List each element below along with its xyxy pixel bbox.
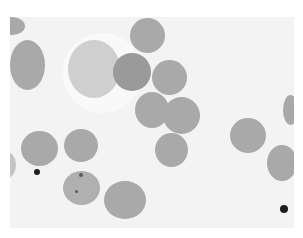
inclusion [75, 190, 78, 193]
blood-cell [155, 133, 188, 167]
blood-cell [230, 118, 266, 153]
blood-cell [104, 181, 146, 219]
blood-cell [267, 145, 294, 181]
blood-cell [64, 129, 98, 162]
micrograph [0, 0, 303, 238]
blood-cell [10, 17, 25, 35]
slide-field [10, 17, 294, 228]
blood-cell [21, 131, 58, 166]
blood-cell [163, 97, 200, 134]
debris [34, 169, 40, 175]
inclusion [79, 173, 83, 177]
blood-cell [130, 18, 165, 53]
infected-cell [63, 171, 100, 205]
debris [280, 205, 288, 213]
blood-cell [152, 60, 187, 95]
blood-cell [283, 95, 294, 125]
blood-cell [113, 53, 151, 91]
blood-cell [10, 152, 16, 178]
blood-cell [10, 40, 45, 90]
